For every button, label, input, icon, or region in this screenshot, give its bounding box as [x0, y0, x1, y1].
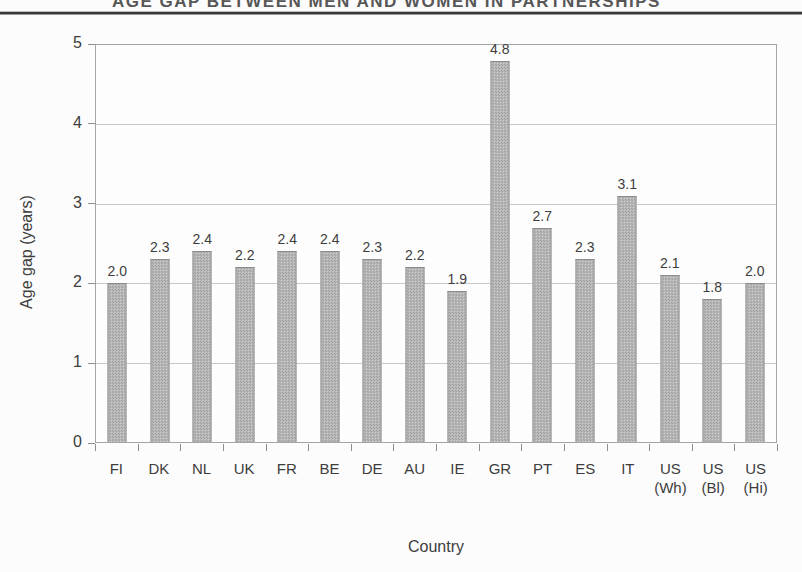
x-tick-label-line1: IT: [621, 459, 634, 478]
x-tick-label: NL: [192, 459, 211, 478]
x-axis-tick: [692, 444, 693, 451]
x-axis-tick: [308, 444, 309, 451]
x-axis-tick: [777, 444, 778, 451]
x-tick-label: US(Wh): [654, 459, 687, 497]
bar-value-label: 2.3: [150, 239, 169, 255]
y-axis-tick: [88, 443, 95, 444]
x-tick-label-line1: GR: [489, 459, 512, 478]
x-tick-label-line1: UK: [234, 459, 255, 478]
x-tick-label: BE: [319, 459, 339, 478]
y-tick-label: 2: [48, 273, 82, 291]
clipped-page-header: AGE GAP BETWEEN MEN AND WOMEN IN PARTNER…: [0, 0, 802, 9]
x-axis-tick: [223, 444, 224, 451]
bar-value-label: 2.4: [193, 231, 212, 247]
page-header-text: AGE GAP BETWEEN MEN AND WOMEN IN PARTNER…: [112, 0, 661, 9]
bar: [448, 291, 467, 442]
bar-value-label: 2.7: [533, 208, 552, 224]
gridline: [96, 124, 776, 125]
bar: [745, 283, 764, 442]
x-tick-label-line1: US: [701, 459, 724, 478]
x-tick-label-line1: IE: [450, 459, 464, 478]
x-tick-label: FR: [277, 459, 297, 478]
x-tick-label-line1: BE: [319, 459, 339, 478]
bar: [320, 251, 339, 442]
y-tick-label: 0: [48, 433, 82, 451]
x-axis-title: Country: [95, 538, 777, 556]
y-tick-label: 3: [48, 194, 82, 212]
x-tick-label-line1: FR: [277, 459, 297, 478]
x-axis-tick: [649, 444, 650, 451]
x-axis-tick: [351, 444, 352, 451]
x-tick-label-line1: FI: [110, 459, 123, 478]
bar-value-label: 3.1: [618, 176, 637, 192]
x-tick-label-line1: US: [654, 459, 687, 478]
bar: [235, 267, 254, 442]
x-tick-label-line2: (Wh): [654, 478, 687, 497]
y-axis-title: Age gap (years): [18, 182, 36, 322]
x-axis-tick: [180, 444, 181, 451]
bar: [660, 275, 679, 442]
x-axis-tick: [95, 444, 96, 451]
bar-value-label: 2.0: [745, 263, 764, 279]
bar: [618, 196, 637, 442]
bar: [575, 259, 594, 442]
x-axis-tick: [564, 444, 565, 451]
bar: [490, 61, 509, 442]
x-axis-tick: [479, 444, 480, 451]
x-tick-label: US(Hi): [744, 459, 768, 497]
y-axis-tick: [88, 123, 95, 124]
y-tick-label: 1: [48, 353, 82, 371]
bar: [193, 251, 212, 442]
x-tick-label: DE: [362, 459, 383, 478]
bar-value-label: 2.2: [405, 247, 424, 263]
y-tick-label: 5: [48, 34, 82, 52]
x-tick-label-line1: DK: [149, 459, 170, 478]
gridline: [96, 204, 776, 205]
x-tick-label: US(Bl): [701, 459, 724, 497]
bar: [108, 283, 127, 442]
x-tick-label: DK: [149, 459, 170, 478]
x-tick-label-line1: ES: [575, 459, 595, 478]
bar-value-label: 2.3: [363, 239, 382, 255]
x-axis-tick: [393, 444, 394, 451]
x-tick-label-line2: (Hi): [744, 478, 768, 497]
scanned-chart-page: AGE GAP BETWEEN MEN AND WOMEN IN PARTNER…: [0, 0, 802, 572]
bar: [278, 251, 297, 442]
bar: [533, 228, 552, 442]
x-axis-tick: [734, 444, 735, 451]
bar-value-label: 4.8: [490, 41, 509, 57]
x-axis-tick: [266, 444, 267, 451]
x-tick-label-line2: (Bl): [701, 478, 724, 497]
x-tick-label-line1: US: [744, 459, 768, 478]
y-tick-label: 4: [48, 114, 82, 132]
x-tick-label: ES: [575, 459, 595, 478]
x-tick-label: IE: [450, 459, 464, 478]
bar-value-label: 2.4: [320, 231, 339, 247]
x-tick-label-line1: PT: [533, 459, 552, 478]
bar-value-label: 1.9: [448, 271, 467, 287]
x-tick-label: UK: [234, 459, 255, 478]
x-axis-tick: [521, 444, 522, 451]
x-tick-label: GR: [489, 459, 512, 478]
x-tick-label-line1: NL: [192, 459, 211, 478]
x-tick-label: PT: [533, 459, 552, 478]
x-tick-label: AU: [404, 459, 425, 478]
bar: [703, 299, 722, 442]
y-axis-tick: [88, 363, 95, 364]
bar-value-label: 1.8: [703, 279, 722, 295]
x-tick-label-line1: AU: [404, 459, 425, 478]
x-axis-tick: [138, 444, 139, 451]
bar: [405, 267, 424, 442]
x-axis-tick: [436, 444, 437, 451]
bar: [363, 259, 382, 442]
y-axis-tick: [88, 283, 95, 284]
plot-area: 2.02.32.42.22.42.42.32.21.94.82.72.33.12…: [95, 44, 777, 443]
x-tick-label: FI: [110, 459, 123, 478]
x-tick-label-line1: DE: [362, 459, 383, 478]
x-tick-label: IT: [621, 459, 634, 478]
bar-value-label: 2.2: [235, 247, 254, 263]
bar-value-label: 2.4: [278, 231, 297, 247]
bar: [150, 259, 169, 442]
y-axis-tick: [88, 203, 95, 204]
bar-value-label: 2.1: [660, 255, 679, 271]
